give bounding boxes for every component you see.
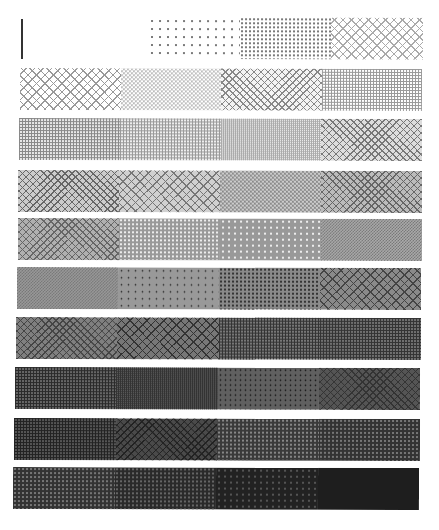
registration-mark (21, 19, 23, 59)
pattern-band-5 (17, 267, 421, 310)
pattern-segment-cross (331, 17, 423, 59)
pattern-band-1 (20, 68, 422, 111)
pattern-segment-dots (219, 268, 320, 310)
pattern-segment-grid (220, 119, 321, 161)
pattern-segment-solid (317, 468, 419, 510)
pattern-segment-grid (14, 418, 116, 460)
pattern-segment-dots (148, 17, 240, 59)
pattern-band-4 (18, 218, 422, 261)
pattern-segment-dots (318, 419, 420, 461)
pattern-segment-dots (216, 468, 318, 510)
pattern-segment-grid (116, 367, 217, 409)
pattern-segment-cross (319, 368, 420, 410)
pattern-segment-cross (117, 317, 218, 359)
pattern-segment-dots (118, 267, 219, 309)
pattern-segment-grid (218, 318, 319, 360)
pattern-segment-dots (217, 368, 318, 410)
pattern-segment-cross (115, 418, 217, 460)
pattern-segment-dots (240, 17, 332, 59)
pattern-segment-dots (114, 467, 216, 509)
pattern-band-2 (19, 118, 422, 161)
pattern-segment-dots (119, 218, 220, 260)
pattern-segment-cross (221, 69, 322, 111)
pattern-segment-dots (13, 467, 115, 509)
pattern-segment-grid (321, 69, 422, 111)
pattern-segment-cross (16, 317, 117, 359)
pattern-segment-check (321, 219, 422, 261)
pattern-band-8 (14, 418, 420, 461)
pattern-band-9 (13, 467, 419, 510)
pattern-segment-grid (19, 118, 120, 160)
pattern-segment-grid (320, 318, 421, 360)
pattern-segment-dots (217, 419, 319, 461)
pattern-segment-grid (15, 367, 116, 409)
pattern-band-3 (18, 170, 422, 213)
pattern-segment-cross (321, 171, 422, 213)
pattern-segment-cross (321, 119, 422, 161)
pattern-segment-check (120, 68, 221, 110)
pattern-segment-grid (120, 118, 221, 160)
pattern-segment-check (17, 267, 118, 309)
pattern-band-6 (16, 317, 421, 360)
pattern-segment-cross (18, 218, 119, 260)
pattern-segment-cross (20, 68, 121, 110)
pattern-segment-cross (119, 170, 220, 212)
pattern-segment-cross (320, 268, 421, 310)
pattern-band-7 (15, 367, 420, 410)
pattern-segment-dots (220, 219, 321, 261)
pattern-segment-check (220, 171, 321, 213)
pattern-band-0 (148, 17, 423, 60)
pattern-segment-cross (18, 170, 119, 212)
